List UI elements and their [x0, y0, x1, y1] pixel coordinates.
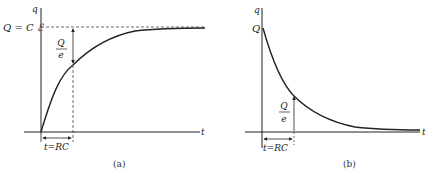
panel-a-x-label: t — [201, 127, 205, 137]
panel-b-rc-label: t=RC — [263, 143, 288, 153]
panel-b-discharging: q Q Q e t=RC t (b) — [245, 5, 426, 169]
panel-a-asymptote-label: Q = C ℰ — [3, 22, 44, 33]
panel-a-fraction-denominator: e — [58, 50, 63, 60]
panel-b-y-label: q — [254, 5, 260, 15]
rc-circuit-diagram: q Q = C ℰ Q e t=RC t (a) q Q Q e t=RC t … — [0, 0, 431, 178]
panel-a-fraction-numerator: Q — [57, 38, 65, 48]
panel-a-rc-label: t=RC — [44, 142, 69, 152]
panel-a-y-label: q — [32, 4, 38, 14]
panel-b-initial-label: Q — [252, 23, 260, 34]
panel-b-x-label: t — [422, 127, 426, 137]
panel-a-charging-curve — [41, 28, 205, 132]
panel-b-fraction-numerator: Q — [280, 101, 288, 111]
panel-b-fraction-denominator: e — [281, 114, 286, 124]
panel-a-caption: (a) — [113, 159, 125, 169]
panel-a-charging: q Q = C ℰ Q e t=RC t (a) — [3, 4, 206, 169]
panel-b-caption: (b) — [343, 159, 356, 169]
